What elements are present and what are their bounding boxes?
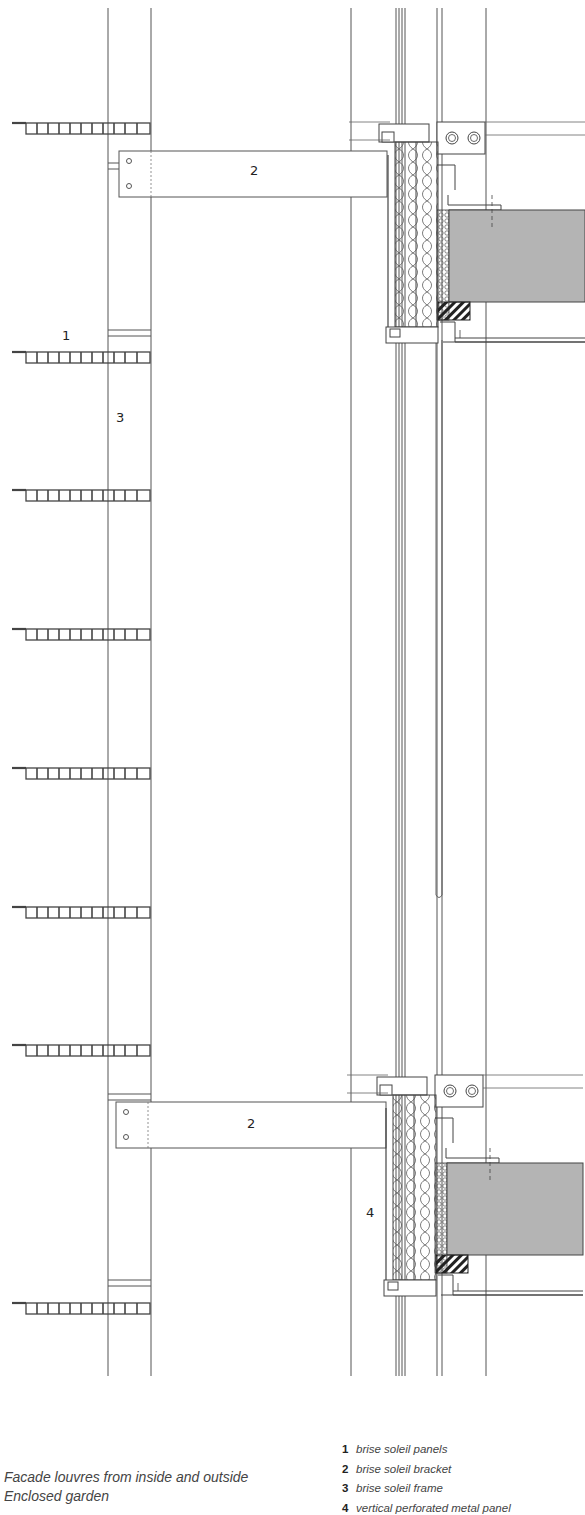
figure-caption: Facade louvres from inside and outside E… xyxy=(4,1468,248,1506)
callout-panels: 1 xyxy=(62,328,70,343)
callout-frame: 3 xyxy=(116,410,124,425)
legend-item: 1brise soleil panels xyxy=(342,1440,511,1460)
facade-section-drawing xyxy=(0,0,585,1400)
legend: 1brise soleil panels 2brise soleil brack… xyxy=(342,1440,511,1515)
callout-bracket-bottom: 2 xyxy=(247,1116,255,1131)
legend-item: 3brise soleil frame xyxy=(342,1479,511,1499)
callout-perforated-panel: 4 xyxy=(366,1205,374,1220)
legend-item: 2brise soleil bracket xyxy=(342,1460,511,1480)
caption-line-2: Enclosed garden xyxy=(4,1487,248,1506)
callout-bracket-top: 2 xyxy=(250,163,258,178)
legend-item: 4vertical perforated metal panel xyxy=(342,1499,511,1515)
caption-line-1: Facade louvres from inside and outside xyxy=(4,1468,248,1487)
